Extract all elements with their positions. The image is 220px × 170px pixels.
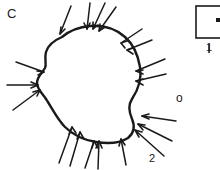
arrow-bottom-2: [96, 141, 102, 169]
arrow-lower-right-2: [138, 124, 172, 141]
figure-drawing: [0, 0, 220, 170]
arrow-left-3: [13, 90, 40, 110]
blob-outline-path: [37, 26, 141, 143]
region-marker-label: o: [176, 92, 183, 104]
arrow-top-1: [60, 6, 71, 34]
arrow-lower-right-1: [142, 114, 176, 121]
inset-box-dot-marker: [216, 18, 220, 22]
arrow-top-2: [84, 3, 90, 29]
arrow-left-2: [7, 82, 38, 88]
panel-label-c: C: [7, 7, 16, 20]
inset-caption-label: 1: [206, 42, 212, 53]
figure-canvas: C o 2 1: [0, 0, 220, 170]
arrow-bottom-1: [85, 141, 98, 168]
annotation-label-two: 2: [149, 153, 155, 164]
arrow-bottom-3: [119, 139, 126, 165]
arrow-left-1: [16, 62, 44, 75]
inward-arrow-group: [7, 3, 176, 169]
inset-box: [196, 6, 220, 38]
